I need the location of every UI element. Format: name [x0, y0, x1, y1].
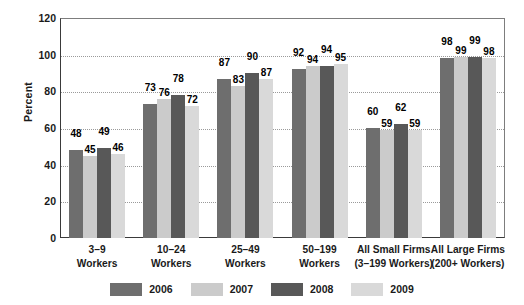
gridline — [61, 202, 504, 203]
plot-area — [60, 18, 505, 238]
chart-legend: 2006200720082009 — [0, 279, 524, 299]
x-label-line1: 3–9 — [89, 244, 106, 255]
x-label-line1: 25–49 — [231, 244, 259, 255]
legend-swatch-icon — [271, 283, 303, 296]
legend-swatch-icon — [191, 283, 223, 296]
y-tick-label: 60 — [4, 122, 56, 134]
y-tick-label: 40 — [4, 159, 56, 171]
legend-item-2008[interactable]: 2008 — [271, 283, 333, 296]
gridline — [61, 56, 504, 57]
x-label-line1: All Large Firms — [431, 244, 505, 255]
legend-swatch-icon — [110, 283, 142, 296]
y-tick-label: 120 — [4, 12, 56, 24]
gridline — [61, 129, 504, 130]
x-label-line1: 50–199 — [303, 244, 337, 255]
gridline — [61, 166, 504, 167]
legend-label: 2009 — [390, 283, 413, 295]
gridline — [61, 92, 504, 93]
y-tick-label: 80 — [4, 85, 56, 97]
legend-item-2009[interactable]: 2009 — [351, 283, 413, 296]
y-tick-label: 20 — [4, 195, 56, 207]
x-label-line2: (200+ Workers) — [423, 257, 513, 271]
x-axis-labels: 3–9Workers10–24Workers25–49Workers50–199… — [60, 243, 505, 277]
y-tick-label: 0 — [4, 232, 56, 244]
legend-swatch-icon — [351, 283, 383, 296]
legend-label: 2006 — [149, 283, 172, 295]
y-axis-ticks: 020406080100120 — [0, 18, 56, 238]
y-tick-label: 100 — [4, 49, 56, 61]
x-axis-category-label: All Large Firms(200+ Workers) — [423, 243, 513, 270]
legend-label: 2007 — [230, 283, 253, 295]
legend-item-2006[interactable]: 2006 — [110, 283, 172, 296]
bar-chart: Percent 020406080100120 4845494673767872… — [0, 0, 524, 305]
legend-item-2007[interactable]: 2007 — [191, 283, 253, 296]
x-label-line1: 10–24 — [157, 244, 185, 255]
legend-label: 2008 — [310, 283, 333, 295]
x-label-line1: All Small Firms — [357, 244, 431, 255]
